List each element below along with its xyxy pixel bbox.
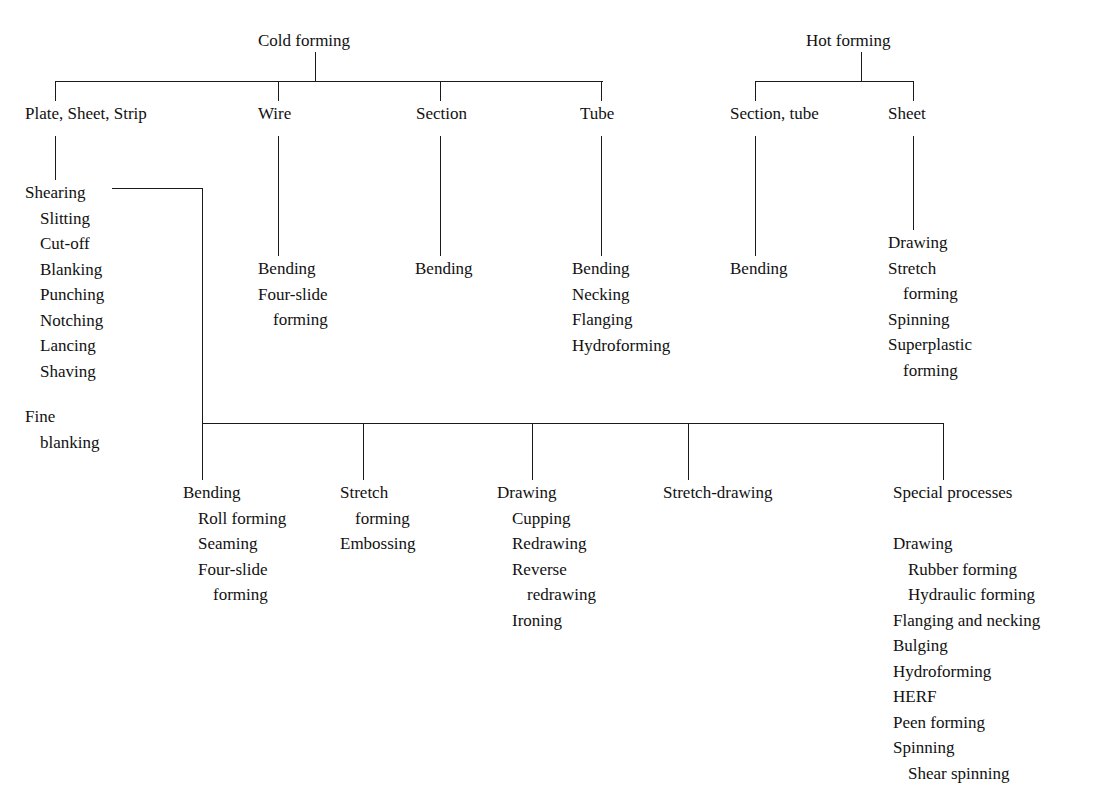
list-section: Bending xyxy=(415,256,473,282)
list-item: Bending xyxy=(572,256,670,282)
list-item: Shearing xyxy=(25,180,104,206)
connector-sheet-to-list xyxy=(913,136,914,230)
list-item: Reverse xyxy=(497,557,596,583)
connector-shearing-elbow-vertical xyxy=(202,188,203,423)
connector-drop-special-processes xyxy=(943,423,944,480)
list-plate-sheet-strip: ShearingSlittingCut-offBlankingPunchingN… xyxy=(25,180,104,384)
node-sheet-hot: Sheet xyxy=(888,103,926,124)
list-special-processes: DrawingRubber formingHydraulic formingFl… xyxy=(893,531,1040,786)
list-item: Four-slide xyxy=(258,282,328,308)
list-item: Drawing xyxy=(888,230,972,256)
list-item: forming xyxy=(888,358,972,384)
list-item: Peen forming xyxy=(893,710,1040,736)
list-item: Bending xyxy=(258,256,328,282)
list-item: HERF xyxy=(893,684,1040,710)
list-special-processes-header: Special processes xyxy=(893,480,1012,506)
connector-drop-section xyxy=(440,81,441,101)
connector-drop-section-tube xyxy=(755,81,756,101)
list-item: forming xyxy=(258,307,328,333)
list-item: Necking xyxy=(572,282,670,308)
list-item: Redrawing xyxy=(497,531,596,557)
list-item: Flanging xyxy=(572,307,670,333)
node-wire: Wire xyxy=(258,103,291,124)
list-item: forming xyxy=(888,281,972,307)
list-stretch-lower: StretchformingEmbossing xyxy=(340,480,416,557)
connector-drop-drawing-lower xyxy=(532,423,533,480)
connector-wire-to-list xyxy=(278,136,279,256)
list-item: Embossing xyxy=(340,531,416,557)
list-item: Cut-off xyxy=(25,231,104,257)
connector-cold-forming-stem xyxy=(315,52,316,82)
list-item: Punching xyxy=(25,282,104,308)
list-item: Cupping xyxy=(497,506,596,532)
list-sheet-hot: DrawingStretchformingSpinningSuperplasti… xyxy=(888,230,972,383)
process-classification-diagram: Cold forming Hot forming Plate, Sheet, S… xyxy=(0,0,1113,798)
connector-drop-stretch-lower xyxy=(363,423,364,480)
connector-section-tube-to-list xyxy=(755,136,756,256)
list-item: Spinning xyxy=(888,307,972,333)
root-node-hot-forming: Hot forming xyxy=(806,30,891,51)
connector-drop-stretch-drawing-lower xyxy=(688,423,689,480)
connector-plate-to-shearing xyxy=(55,136,56,180)
list-item: Bulging xyxy=(893,633,1040,659)
list-item: forming xyxy=(340,506,416,532)
connector-hot-forming-stem xyxy=(861,52,862,82)
list-item: Bending xyxy=(183,480,286,506)
list-item: blanking xyxy=(25,430,100,456)
list-item: Notching xyxy=(25,308,104,334)
list-item: Blanking xyxy=(25,257,104,283)
list-fine-blanking: Fineblanking xyxy=(25,404,100,455)
list-item: Bending xyxy=(415,256,473,282)
connector-drop-plate-sheet-strip xyxy=(55,81,56,101)
list-tube: BendingNeckingFlangingHydroforming xyxy=(572,256,670,358)
list-item: Flanging and necking xyxy=(893,608,1040,634)
node-tube: Tube xyxy=(580,103,614,124)
list-item: Hydroforming xyxy=(572,333,670,359)
connector-shearing-elbow-horizontal xyxy=(112,188,203,189)
list-item: redrawing xyxy=(497,582,596,608)
list-wire: BendingFour-slideforming xyxy=(258,256,328,333)
node-section: Section xyxy=(416,103,467,124)
list-item: Hydraulic forming xyxy=(893,582,1040,608)
connector-tube-to-list xyxy=(601,136,602,256)
list-item: Lancing xyxy=(25,333,104,359)
list-item: Shaving xyxy=(25,359,104,385)
list-item: Four-slide xyxy=(183,557,286,583)
connector-drop-sheet-hot xyxy=(913,81,914,101)
list-item: Bending xyxy=(730,256,788,282)
node-plate-sheet-strip: Plate, Sheet, Strip xyxy=(25,103,147,124)
connector-lower-bus xyxy=(202,423,944,424)
list-item: Special processes xyxy=(893,480,1012,506)
list-item: Stretch xyxy=(888,256,972,282)
connector-section-to-list xyxy=(440,136,441,256)
list-item: Stretch-drawing xyxy=(663,480,773,506)
list-bending-lower: BendingRoll formingSeamingFour-slideform… xyxy=(183,480,286,608)
list-item: Shear spinning xyxy=(893,761,1040,787)
list-item: Ironing xyxy=(497,608,596,634)
list-item: Seaming xyxy=(183,531,286,557)
list-item: Drawing xyxy=(497,480,596,506)
list-item: Hydroforming xyxy=(893,659,1040,685)
connector-drop-bending-lower xyxy=(202,423,203,480)
list-item: Rubber forming xyxy=(893,557,1040,583)
connector-drop-wire xyxy=(278,81,279,101)
list-section-tube-hot: Bending xyxy=(730,256,788,282)
root-node-cold-forming: Cold forming xyxy=(258,30,350,51)
connector-hot-forming-bus xyxy=(755,81,914,82)
list-stretch-drawing-lower: Stretch-drawing xyxy=(663,480,773,506)
list-item: Fine xyxy=(25,404,100,430)
list-item: Spinning xyxy=(893,735,1040,761)
list-item: Slitting xyxy=(25,206,104,232)
connector-drop-tube xyxy=(601,81,602,101)
list-item: Roll forming xyxy=(183,506,286,532)
node-section-tube: Section, tube xyxy=(730,103,819,124)
list-item: forming xyxy=(183,582,286,608)
list-item: Drawing xyxy=(893,531,1040,557)
list-item: Superplastic xyxy=(888,332,972,358)
list-item: Stretch xyxy=(340,480,416,506)
list-drawing-lower: DrawingCuppingRedrawingReverseredrawingI… xyxy=(497,480,596,633)
connector-cold-forming-bus xyxy=(55,81,603,82)
